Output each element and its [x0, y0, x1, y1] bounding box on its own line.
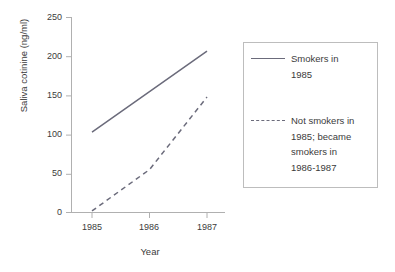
y-tick-label-150: 150: [26, 90, 62, 100]
legend-label-became-smokers: Not smokers in 1985; became smokers in 1…: [291, 113, 375, 175]
x-tick-label-1986: 1986: [124, 222, 174, 232]
y-tick-label-100: 100: [26, 129, 62, 139]
legend-label-line-1: Smokers in: [291, 51, 375, 67]
chart-figure: 250 200 150 100 50 0 1985 1986 1987 Sali…: [0, 0, 395, 272]
legend-label-line-1: Not smokers in: [291, 113, 375, 129]
series-line-smokers-1985: [92, 51, 207, 132]
y-axis-title: Saliva cotinine (ng/ml): [18, 0, 29, 141]
series-line-became-smokers: [92, 97, 207, 211]
legend-label-line-3: smokers in: [291, 144, 375, 160]
legend-label-smokers-1985: Smokers in 1985: [291, 51, 375, 82]
y-tick-label-250: 250: [26, 12, 62, 22]
y-tick-label-50: 50: [26, 168, 62, 178]
legend-sample-dashed-line-icon: [251, 120, 285, 121]
x-axis-title: Year: [92, 246, 208, 257]
x-tick-label-1985: 1985: [67, 222, 117, 232]
legend-sample-solid-line-icon: [251, 58, 285, 59]
x-tick-label-1987: 1987: [182, 222, 232, 232]
y-tick-label-0: 0: [26, 207, 62, 217]
legend-label-line-4: 1986-1987: [291, 160, 375, 176]
legend-label-line-2: 1985: [291, 67, 375, 83]
legend-label-line-2: 1985; became: [291, 129, 375, 145]
y-tick-label-200: 200: [26, 51, 62, 61]
chart-legend: Smokers in 1985 Not smokers in 1985; bec…: [243, 42, 378, 188]
